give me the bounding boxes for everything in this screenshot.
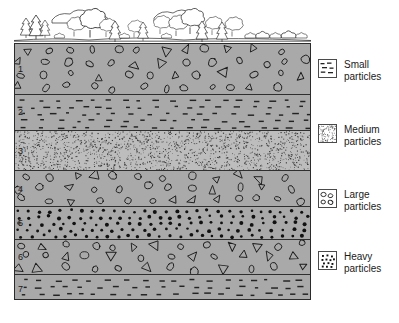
legend-entry-heavy-particles: Heavyparticles: [318, 251, 381, 274]
layer-3-texture: [15, 131, 310, 171]
soil-layer-1: 1: [15, 44, 310, 95]
soil-layer-5: 5: [15, 207, 310, 240]
soil-layer-6: 6: [15, 240, 310, 274]
layer-7-texture: [15, 275, 310, 300]
layer-number-2: 2: [18, 108, 23, 117]
layer-number-5: 5: [18, 219, 23, 228]
legend-entry-large-particles: Largeparticles: [318, 189, 381, 212]
layer-number-1: 1: [18, 65, 23, 74]
layer-5-texture: [15, 207, 310, 239]
layer-number-6: 6: [18, 253, 23, 262]
layer-4-texture: [15, 171, 310, 206]
layer-1-texture: [15, 44, 310, 94]
soil-layer-2: 2: [15, 95, 310, 131]
medium-particles-swatch: [318, 124, 337, 143]
layer-6-texture: [15, 240, 310, 273]
legend-label-heavy: Heavyparticles: [344, 251, 381, 274]
layer-number-3: 3: [18, 146, 23, 155]
soil-layer-7: 7: [15, 275, 310, 300]
legend-label-line1: Heavy: [344, 251, 372, 262]
large-particles-swatch: [318, 189, 337, 208]
soil-layer-3: 3: [15, 131, 310, 172]
legend-label-large: Largeparticles: [344, 189, 381, 212]
legend-label-line1: Small: [344, 59, 369, 70]
legend-label-line2: particles: [344, 71, 381, 83]
legend-label-line2: particles: [344, 136, 381, 148]
legend-label-line2: particles: [344, 201, 381, 213]
small-particles-swatch: [318, 59, 337, 78]
soil-profile-block: 12345678: [14, 43, 311, 300]
geological-cross-section-figure: 12345678 SmallparticlesMediumparticlesLa…: [0, 0, 399, 323]
legend-label-line1: Medium: [344, 124, 380, 135]
layer-number-7: 7: [18, 284, 23, 293]
surface-landscape: [14, 2, 311, 44]
legend-entry-medium-particles: Mediumparticles: [318, 124, 381, 147]
layer-2-texture: [15, 95, 310, 130]
layer-number-4: 4: [18, 184, 23, 193]
legend-label-medium: Mediumparticles: [344, 124, 381, 147]
legend-label-line2: particles: [344, 263, 381, 275]
heavy-particles-swatch: [318, 251, 337, 270]
legend-label-line1: Large: [344, 189, 370, 200]
legend: SmallparticlesMediumparticlesLargepartic…: [318, 55, 399, 295]
soil-layer-4: 4: [15, 171, 310, 207]
legend-entry-small-particles: Smallparticles: [318, 59, 381, 82]
legend-label-small: Smallparticles: [344, 59, 381, 82]
